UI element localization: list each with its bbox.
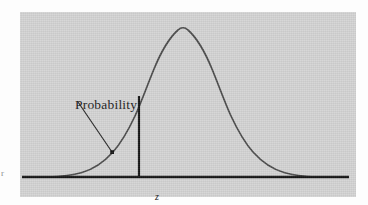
probability-annotation-label: Probability bbox=[75, 98, 137, 112]
z-axis-tick-label: z bbox=[155, 192, 159, 202]
figure-page: r Probability z bbox=[0, 0, 368, 205]
figure-plate: Probability z bbox=[20, 12, 356, 197]
probability-pointer-dot bbox=[110, 150, 114, 154]
page-edge-text-fragment: r bbox=[1, 169, 7, 176]
normal-distribution-chart bbox=[20, 12, 356, 197]
